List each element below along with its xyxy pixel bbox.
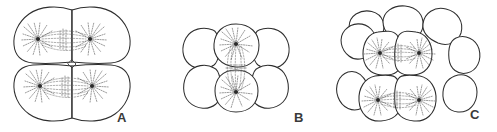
panel-c-label: C [470, 108, 480, 121]
panel-a-label: A [117, 111, 127, 124]
front-cell-upper-right [395, 31, 432, 75]
panel-b-label: B [294, 111, 304, 124]
blastomere-lower-left [14, 65, 72, 121]
panel-b-cells [183, 24, 289, 112]
blastomere-upper-right [72, 7, 130, 63]
figure-canvas: A [0, 0, 497, 132]
panel-b [175, 0, 310, 132]
panel-a [0, 0, 150, 132]
panel-a-cells [14, 7, 130, 121]
bg-cell-right-upper [449, 37, 480, 74]
